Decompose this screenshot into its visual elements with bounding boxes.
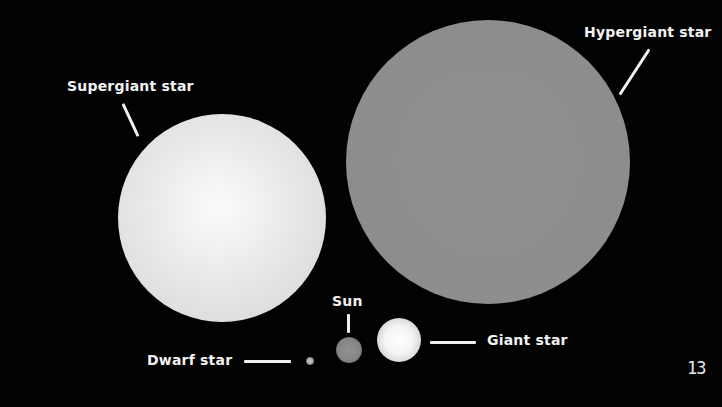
- giant-label: Giant star: [487, 332, 568, 348]
- giant-leader-line: [430, 341, 476, 344]
- dwarf-label: Dwarf star: [147, 352, 232, 368]
- sun-leader-line: [347, 314, 350, 333]
- hypergiant-leader-line: [619, 49, 651, 96]
- giant-star: [377, 318, 421, 362]
- diagram-canvas: Hypergiant star Supergiant star Sun Gian…: [0, 0, 722, 407]
- hypergiant-label: Hypergiant star: [584, 24, 711, 40]
- supergiant-leader-line: [122, 103, 140, 137]
- dwarf-star: [306, 357, 314, 365]
- supergiant-label: Supergiant star: [67, 78, 194, 94]
- page-number: 13: [687, 358, 705, 378]
- sun-label: Sun: [332, 293, 363, 309]
- sun-star: [336, 337, 362, 363]
- hypergiant-star: [346, 20, 630, 304]
- supergiant-star: [118, 114, 326, 322]
- dwarf-leader-line: [244, 360, 291, 363]
